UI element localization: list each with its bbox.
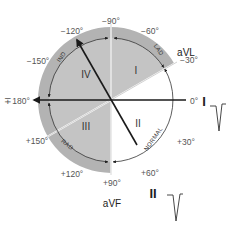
quadrant-ii-label: II [135,118,141,129]
angle-plus90: +90° [103,178,121,188]
lead-ii-label: II [149,186,156,201]
angle-pm180: ∓180° [4,96,30,106]
hexaxial-diagram: I II III IV LAD NORMAL RAD IND −90° −60°… [0,0,240,232]
angle-minus120: −120° [61,26,84,36]
quadrant-iv-label: IV [81,69,91,80]
quadrant-iii-label: III [82,121,90,132]
angle-plus30: +30° [177,137,195,147]
quadrant-i-label: I [135,65,138,76]
angle-plus120: +120° [61,169,84,179]
lead-avl-label: aVL [177,47,195,58]
angle-plus60: +60° [141,168,159,178]
angle-minus90: −90° [102,16,120,26]
angle-plus150: +150° [26,136,49,146]
lead-ii-qrs-icon [167,194,183,221]
lead-i-qrs-icon [210,104,226,131]
lead-avf-label: aVF [103,198,121,209]
lead-i-label: I [202,94,206,109]
angle-minus150: −150° [27,56,50,66]
angle-zero: 0° [190,96,198,106]
normal-label: NORMAL [143,126,164,152]
angle-minus60: −60° [141,26,159,36]
